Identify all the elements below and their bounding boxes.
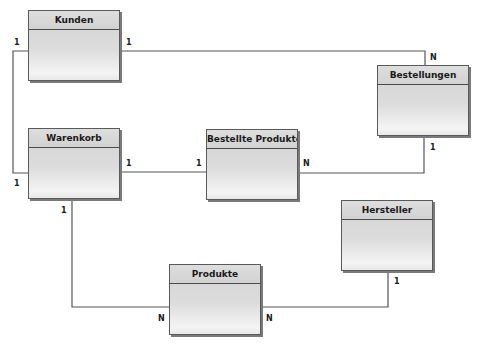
entity-kunden[interactable]: Kunden	[28, 10, 120, 81]
line-kunden-warenkorb	[13, 51, 28, 173]
entity-body	[342, 220, 432, 270]
cardinality-label: N	[430, 53, 437, 62]
entity-body	[29, 30, 119, 80]
entity-title: Kunden	[29, 11, 119, 30]
entity-bestellte-produkte[interactable]: Bestellte Produkte	[206, 129, 298, 200]
cardinality-label: N	[266, 314, 273, 323]
entity-body	[378, 85, 468, 135]
entity-bestellungen[interactable]: Bestellungen	[377, 65, 469, 136]
line-produkte-hersteller	[262, 271, 388, 307]
entity-title: Produkte	[170, 265, 260, 284]
entity-hersteller[interactable]: Hersteller	[341, 200, 433, 271]
cardinality-label: 1	[14, 38, 20, 47]
line-kunden-bestellungen	[121, 51, 425, 65]
entity-produkte[interactable]: Produkte	[169, 264, 261, 335]
cardinality-label: 1	[14, 179, 20, 188]
line-bestellte-produkte-bestellungen	[298, 136, 424, 173]
entity-body	[207, 149, 297, 199]
cardinality-label: N	[158, 314, 165, 323]
line-warenkorb-produkte	[72, 199, 169, 307]
er-diagram: Kunden Bestellungen Warenkorb Bestellte …	[0, 0, 482, 344]
entity-title: Hersteller	[342, 201, 432, 220]
cardinality-label: 1	[394, 277, 400, 286]
cardinality-label: 1	[61, 206, 67, 215]
cardinality-label: 1	[196, 159, 202, 168]
entity-title: Warenkorb	[29, 129, 119, 148]
entity-title: Bestellungen	[378, 66, 468, 85]
entity-title: Bestellte Produkte	[207, 130, 297, 149]
cardinality-label: 1	[430, 143, 436, 152]
entity-body	[29, 148, 119, 198]
cardinality-label: N	[303, 159, 310, 168]
entity-body	[170, 284, 260, 334]
cardinality-label: 1	[126, 38, 132, 47]
cardinality-label: 1	[126, 159, 132, 168]
entity-warenkorb[interactable]: Warenkorb	[28, 128, 120, 199]
